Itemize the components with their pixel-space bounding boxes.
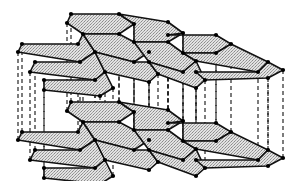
carbon-atom-dot (28, 158, 32, 162)
carbon-atom-dot (229, 42, 233, 46)
carbon-atom-dot (181, 70, 185, 74)
carbon-atom-dot (147, 60, 151, 64)
carbon-atom-dot (194, 147, 198, 151)
carbon-atom-dot (78, 148, 82, 152)
carbon-atom-dot (132, 148, 136, 152)
carbon-atom-dot (16, 138, 20, 142)
carbon-atom-dot (117, 32, 121, 36)
carbon-atom-dot (281, 156, 285, 160)
carbon-atom-dot (65, 21, 69, 25)
carbon-atom-dot (98, 94, 102, 98)
carbon-atom-dot (166, 128, 170, 132)
carbon-atom-dot (117, 12, 121, 16)
carbon-atom-dot (93, 138, 97, 142)
upper-layer (16, 12, 285, 98)
carbon-atom-dot (281, 68, 285, 72)
carbon-atom-dot (194, 158, 198, 162)
carbon-atom-dot (132, 60, 136, 64)
carbon-atom-dot (181, 119, 185, 123)
carbon-atom-dot (156, 72, 160, 76)
carbon-atom-dot (214, 139, 218, 143)
carbon-atom-dot (42, 78, 46, 82)
carbon-atom-dot (42, 88, 46, 92)
carbon-atom-dot (81, 120, 85, 124)
carbon-atom-dot (214, 33, 218, 37)
carbon-atom-dot (214, 121, 218, 125)
lower-layer (16, 100, 285, 181)
carbon-atom-dot (76, 130, 80, 134)
carbon-atom-dot (42, 176, 46, 180)
carbon-atom-dot (181, 51, 185, 55)
carbon-atom-dot (132, 110, 136, 114)
carbon-atom-dot (132, 40, 136, 44)
carbon-atom-dot (214, 51, 218, 55)
carbon-atom-dot (147, 138, 151, 142)
carbon-atom-dot (117, 120, 121, 124)
carbon-atom-dot (256, 158, 260, 162)
carbon-atom-dot (266, 164, 270, 168)
carbon-atom-dot (111, 174, 115, 178)
carbon-atom-dot (76, 42, 80, 46)
carbon-atom-dot (20, 130, 24, 134)
carbon-atom-dot (65, 109, 69, 113)
carbon-atom-dot (103, 158, 107, 162)
carbon-atom-dot (181, 139, 185, 143)
carbon-atom-dot (256, 70, 260, 74)
carbon-atom-dot (33, 60, 37, 64)
carbon-atom-dot (166, 108, 170, 112)
carbon-atom-dot (111, 86, 115, 90)
carbon-atom-dot (16, 50, 20, 54)
carbon-atom-dot (28, 70, 32, 74)
carbon-atom-dot (78, 60, 82, 64)
carbon-atom-dot (20, 42, 24, 46)
carbon-atom-dot (147, 50, 151, 54)
carbon-atom-dot (266, 148, 270, 152)
carbon-atom-dot (166, 33, 170, 37)
carbon-atom-dot (266, 60, 270, 64)
carbon-atom-dot (69, 100, 73, 104)
carbon-atom-dot (194, 174, 198, 178)
carbon-atom-dot (203, 78, 207, 82)
carbon-atom-dot (166, 20, 170, 24)
carbon-atom-dot (132, 128, 136, 132)
carbon-atom-dot (181, 31, 185, 35)
carbon-atom-dot (147, 168, 151, 172)
carbon-atom-dot (103, 70, 107, 74)
carbon-atom-dot (33, 148, 37, 152)
carbon-atom-dot (229, 130, 233, 134)
carbon-atom-dot (156, 160, 160, 164)
carbon-atom-dot (42, 166, 46, 170)
carbon-atom-dot (147, 80, 151, 84)
carbon-atom-dot (147, 148, 151, 152)
carbon-atom-dot (81, 32, 85, 36)
carbon-atom-dot (194, 70, 198, 74)
carbon-atom-dot (194, 59, 198, 63)
carbon-atom-dot (69, 12, 73, 16)
carbon-atom-dot (132, 22, 136, 26)
lattice-svg (0, 0, 286, 181)
carbon-atom-dot (166, 121, 170, 125)
carbon-atom-dot (117, 100, 121, 104)
carbon-atom-dot (194, 86, 198, 90)
carbon-atom-dot (166, 40, 170, 44)
carbon-atom-dot (93, 78, 97, 82)
carbon-atom-dot (181, 158, 185, 162)
carbon-atom-dot (266, 76, 270, 80)
carbon-atom-dot (93, 50, 97, 54)
graphite-lattice-diagram (0, 0, 286, 181)
carbon-atom-dot (93, 166, 97, 170)
carbon-atom-dot (203, 166, 207, 170)
hexagon-ring (18, 34, 95, 62)
